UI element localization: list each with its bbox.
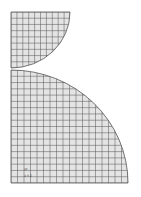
top-part	[11, 12, 70, 68]
coord-label: X Y Z	[24, 175, 32, 178]
axis-label: yz	[24, 168, 27, 171]
bottom-part	[11, 70, 128, 183]
mesh-diagram	[0, 0, 141, 197]
